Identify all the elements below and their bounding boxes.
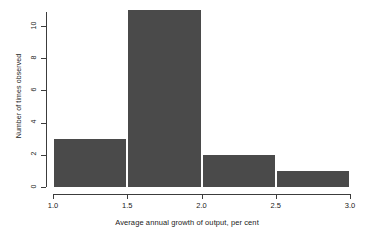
y-axis-tick-label: 0 [30, 179, 37, 193]
histogram-bar [53, 139, 127, 187]
x-axis-tick [53, 194, 54, 199]
x-axis-tick [350, 194, 351, 199]
y-axis-tick-label: 6 [30, 82, 37, 96]
y-axis-tick [41, 90, 46, 91]
x-axis-tick-label: 2.0 [189, 201, 215, 210]
x-axis-tick-label: 2.5 [263, 201, 289, 210]
y-axis-tick-label-wrap: 6 [26, 86, 40, 95]
y-axis-tick-label-wrap: 0 [26, 183, 40, 192]
y-axis-tick-label: 4 [30, 115, 37, 129]
y-axis-tick [41, 123, 46, 124]
y-axis-tick-label: 8 [30, 50, 37, 64]
y-axis-title: Number of times observed [15, 44, 23, 148]
y-axis-tick-label-wrap: 4 [26, 118, 40, 127]
x-axis-tick-label: 1.5 [114, 201, 140, 210]
x-axis-tick-label: 1.0 [40, 201, 66, 210]
x-axis-tick-label: 3.0 [337, 201, 363, 210]
y-axis-tick-label: 10 [30, 18, 37, 32]
y-axis-tick-label-wrap: 8 [26, 54, 40, 63]
y-axis-line [46, 12, 47, 187]
histogram-bar [276, 171, 350, 187]
y-axis-tick-label: 2 [30, 147, 37, 161]
y-axis-tick [41, 155, 46, 156]
y-axis-tick [41, 26, 46, 27]
y-axis-tick-label-wrap: 2 [26, 150, 40, 159]
x-axis-tick [202, 194, 203, 199]
histogram-figure: 0246810 Number of times observed 1.01.52… [0, 0, 374, 240]
histogram-bar [202, 155, 276, 187]
x-axis-tick [127, 194, 128, 199]
x-axis-title: Average annual growth of output, per cen… [0, 218, 374, 227]
y-axis-tick [41, 187, 46, 188]
y-axis-tick [41, 58, 46, 59]
histogram-bar [127, 10, 201, 187]
y-axis-tick-label-wrap: 10 [26, 22, 40, 31]
x-axis-tick [276, 194, 277, 199]
plot-area [53, 10, 350, 187]
